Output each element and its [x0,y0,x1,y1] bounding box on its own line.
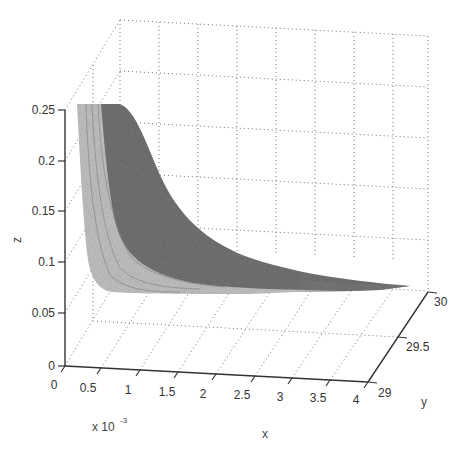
svg-text:2: 2 [200,387,207,401]
x-axis-line [65,366,368,382]
x-multiplier: x 10 -3 [92,416,128,434]
svg-text:1: 1 [125,383,132,397]
y-tick-labels: 29 29.5 30 [378,295,448,400]
y-ticks [368,292,437,383]
svg-text:0: 0 [48,359,55,373]
svg-text:x 10: x 10 [92,420,115,434]
z-axis-label: z [10,237,24,243]
svg-text:0.25: 0.25 [32,103,56,117]
z-tick-labels: 0.25 0.2 0.15 0.1 0.05 0 [32,103,56,373]
svg-text:3: 3 [277,390,284,404]
x-axis-label: x [262,427,268,441]
svg-text:1.5: 1.5 [159,385,176,399]
dark-band [100,104,410,292]
x-ticks [61,366,368,388]
point-cloud [77,104,410,294]
svg-text:0.1: 0.1 [38,255,55,269]
svg-text:29: 29 [378,386,392,400]
svg-text:0.05: 0.05 [32,306,56,320]
svg-text:0.5: 0.5 [80,381,97,395]
svg-text:0: 0 [51,378,58,392]
svg-text:0.2: 0.2 [38,154,55,168]
x-tick-labels: 0 0.5 1 1.5 2 2.5 3 3.5 4 [51,378,360,407]
3d-scatter-plot: 0.25 0.2 0.15 0.1 0.05 0 0 0.5 1 1.5 2 2… [0,0,464,463]
svg-text:4: 4 [353,393,360,407]
svg-text:-3: -3 [120,416,128,425]
z-ticks [58,110,65,366]
svg-text:29.5: 29.5 [406,340,430,354]
svg-text:2.5: 2.5 [234,388,251,402]
svg-text:30: 30 [434,295,448,309]
svg-text:3.5: 3.5 [310,391,327,405]
svg-text:0.15: 0.15 [32,204,56,218]
y-axis-label: y [421,395,427,409]
